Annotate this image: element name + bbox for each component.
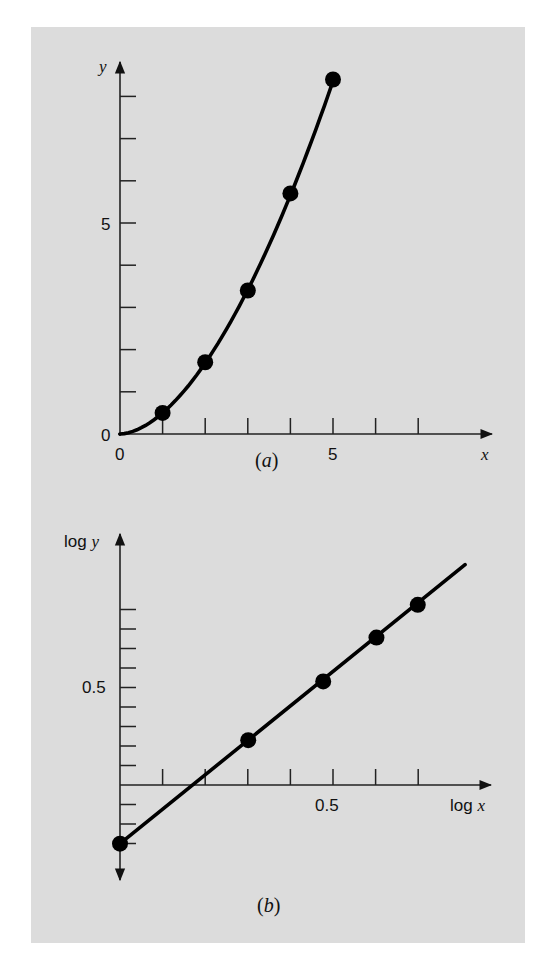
chart-b-x-axis-label: log x [450,796,485,815]
chart-b-data-point [315,673,331,689]
chart-a-x-axis-label: x [480,445,489,464]
chart-a-data-point [282,185,298,201]
chart-b-x-tick-label-05: 0.5 [315,796,339,815]
chart-a-y-tick-label-5: 5 [101,215,110,234]
chart-a-data-point [240,283,256,299]
chart-a-x-tick-label-5: 5 [328,445,337,464]
chart-b-axes [120,534,491,880]
chart-b-data-point [368,630,384,646]
chart-b-caption: (b) [257,894,280,917]
chart-a-x-tick-label-0: 0 [115,445,124,464]
chart-b-y-ticks [120,610,136,844]
chart-a-data-point [155,405,171,421]
chart-a-data-point [197,354,213,370]
chart-a-y-ticks [120,96,136,391]
chart-b-data-point [112,836,128,852]
chart-a-data-points [155,72,341,421]
chart-a-caption: (a) [255,449,278,472]
chart-a-x-ticks [163,418,419,434]
chart-a-data-point [325,72,341,88]
chart-a-linear-plot: y x 0 5 0 5 (a) [97,57,492,472]
chart-b-loglog-plot: log y log x 0.5 0.5 (b) [64,532,491,917]
chart-a-y-axis-label: y [97,57,107,76]
figure-canvas: y x 0 5 0 5 (a) log y log x 0.5 0.5 ( [0,0,542,966]
chart-a-y-tick-label-0: 0 [101,426,110,445]
chart-b-y-tick-label-05: 0.5 [82,678,106,697]
chart-a-axes [118,62,492,436]
chart-b-data-point [410,597,426,613]
chart-a-fit-curve [120,81,333,434]
chart-b-y-axis-label: log y [64,532,99,551]
chart-b-data-point [240,732,256,748]
